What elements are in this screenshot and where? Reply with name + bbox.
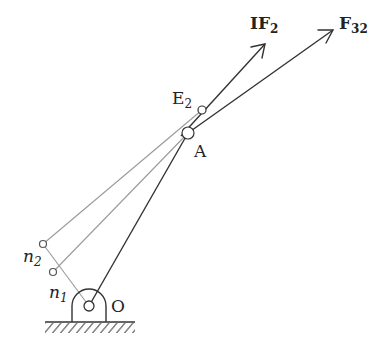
point-n1 (50, 269, 57, 276)
label-n1: n1 (49, 284, 68, 304)
label-O: O (111, 298, 125, 315)
joints (40, 106, 207, 276)
mechanism-diagram (0, 0, 384, 364)
label-F32-main: F (339, 13, 351, 33)
force-lines (89, 30, 333, 306)
label-IF2: IF2 (250, 15, 278, 35)
IF2-line (181, 44, 265, 136)
pivot-O (84, 301, 94, 311)
joint-A (182, 127, 194, 139)
label-n2: n2 (23, 248, 42, 268)
label-n2-main: n (23, 246, 34, 266)
label-IF2-sub: 2 (270, 22, 278, 36)
label-O-main: O (111, 296, 125, 316)
label-IF2-main: IF (250, 13, 270, 33)
label-E2-main: E (172, 88, 184, 108)
label-A-main: A (194, 141, 206, 161)
construction-lines (43, 110, 202, 306)
label-F32: F32 (339, 15, 368, 35)
joint-E2 (198, 106, 206, 114)
label-n1-sub: 1 (60, 291, 68, 305)
label-n1-main: n (49, 282, 60, 302)
label-E2-sub: 2 (184, 97, 192, 111)
line-n2-E2 (43, 110, 202, 244)
point-n2 (40, 241, 47, 248)
label-E2: E2 (172, 90, 192, 110)
ground-hatch (45, 323, 135, 333)
label-n2-sub: 2 (34, 255, 42, 269)
label-F32-sub: 32 (351, 22, 368, 36)
label-A: A (194, 143, 206, 160)
